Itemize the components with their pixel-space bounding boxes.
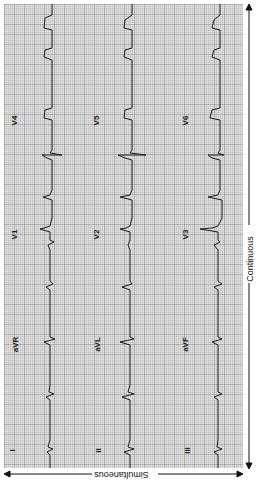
trace-col1 <box>40 4 62 468</box>
lead-label-V3: V3 <box>181 230 190 240</box>
lead-label-II: II <box>94 448 103 452</box>
lead-label-I: I <box>8 449 17 451</box>
lead-label-III: III <box>183 447 192 454</box>
ecg-traces <box>0 0 258 482</box>
lead-label-aVL: aVL <box>93 337 102 352</box>
lead-label-aVR: aVR <box>11 337 20 353</box>
simultaneous-axis-label: Simultaneous <box>0 470 243 480</box>
trace-col3 <box>200 4 224 468</box>
lead-label-V6: V6 <box>181 116 190 126</box>
lead-label-aVF: aVF <box>181 337 190 352</box>
lead-label-V4: V4 <box>10 116 19 126</box>
lead-label-V1: V1 <box>10 230 19 240</box>
trace-col2 <box>118 4 146 468</box>
lead-label-V5: V5 <box>92 116 101 126</box>
lead-label-V2: V2 <box>92 230 101 240</box>
continuous-axis-label: Continuous <box>245 229 255 289</box>
